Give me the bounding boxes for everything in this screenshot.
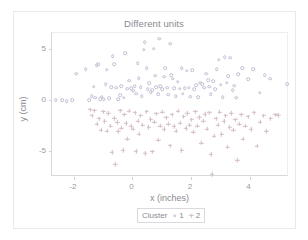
data-point	[258, 120, 262, 124]
legend-entry[interactable]: 2	[189, 211, 200, 220]
legend-label: 1	[179, 211, 183, 220]
data-point	[71, 98, 75, 102]
data-point	[243, 124, 247, 128]
data-point	[117, 98, 121, 102]
legend-entries: 12	[172, 211, 200, 220]
data-point	[105, 68, 109, 72]
data-point	[185, 111, 189, 115]
chart-title: Different units	[0, 18, 308, 29]
data-point	[115, 120, 119, 124]
data-point	[102, 119, 106, 123]
data-point	[152, 47, 156, 51]
data-point	[235, 96, 239, 100]
data-point	[120, 84, 124, 88]
data-point	[187, 86, 191, 90]
y-tick-label: -5	[39, 145, 46, 154]
data-point	[84, 67, 88, 71]
data-point	[225, 81, 229, 85]
data-point	[127, 109, 131, 113]
data-point	[187, 123, 191, 127]
y-tick-mark	[49, 151, 52, 152]
data-point	[124, 121, 128, 125]
data-point	[101, 109, 105, 113]
data-point	[104, 82, 108, 86]
data-point	[113, 62, 117, 66]
data-point	[136, 62, 140, 66]
data-point	[179, 148, 183, 152]
data-point	[140, 95, 144, 99]
data-point	[231, 128, 235, 132]
data-point	[285, 82, 289, 86]
data-point	[60, 99, 64, 103]
data-point	[153, 74, 157, 78]
data-point	[181, 92, 185, 96]
x-axis-tick-labels: -2024	[51, 177, 288, 191]
legend-entry[interactable]: 1	[172, 211, 183, 220]
data-point	[202, 86, 206, 90]
data-point	[209, 152, 213, 156]
data-point	[240, 67, 244, 71]
data-point	[113, 162, 117, 166]
data-point	[222, 119, 226, 123]
data-point	[140, 123, 144, 127]
data-point	[119, 126, 123, 130]
data-point	[168, 42, 172, 46]
data-point	[110, 150, 114, 154]
data-point	[246, 114, 250, 118]
data-point	[221, 96, 225, 100]
data-point	[193, 109, 197, 113]
data-point	[191, 130, 195, 134]
legend-marker	[189, 213, 193, 217]
data-point	[231, 89, 235, 93]
data-point	[74, 72, 78, 76]
data-point	[232, 84, 236, 88]
data-point	[189, 117, 193, 121]
data-point	[139, 85, 143, 89]
data-point	[229, 111, 233, 115]
data-point	[219, 132, 223, 136]
data-point	[201, 119, 205, 123]
data-point	[138, 113, 142, 117]
data-point	[219, 83, 223, 87]
data-point	[174, 95, 178, 99]
x-tick-label: -2	[69, 182, 76, 191]
data-point	[161, 87, 165, 91]
data-point	[152, 120, 156, 124]
data-point	[176, 80, 180, 84]
data-point	[195, 124, 199, 128]
data-point	[185, 69, 189, 73]
data-point	[90, 113, 94, 117]
data-point	[191, 68, 195, 72]
data-point	[123, 51, 127, 55]
data-point	[156, 138, 160, 142]
data-point	[225, 145, 229, 149]
data-point	[107, 97, 111, 101]
data-point	[106, 111, 110, 115]
data-point	[207, 85, 211, 89]
data-point	[127, 79, 131, 83]
data-point	[178, 121, 182, 125]
data-point	[150, 149, 154, 153]
data-point	[183, 86, 187, 90]
data-point	[121, 148, 125, 152]
data-point	[87, 99, 91, 103]
data-point	[160, 110, 164, 114]
data-point	[193, 87, 197, 91]
chart-figure: Different units 50-5 -2024 y (cm) x (inc…	[0, 0, 308, 240]
data-point	[137, 132, 141, 136]
data-point	[171, 77, 175, 81]
data-point	[241, 137, 245, 141]
data-point	[249, 127, 253, 131]
data-point	[276, 113, 280, 117]
data-point	[180, 67, 184, 71]
data-point	[216, 123, 220, 127]
scatter-points-layer	[52, 33, 287, 175]
data-point	[213, 87, 217, 91]
legend[interactable]: Cluster 12	[137, 208, 205, 223]
data-point	[93, 96, 97, 100]
data-point	[246, 77, 250, 81]
data-point	[163, 67, 167, 71]
x-tick-label: 0	[129, 182, 133, 191]
data-point	[166, 93, 170, 97]
data-point	[110, 85, 114, 89]
